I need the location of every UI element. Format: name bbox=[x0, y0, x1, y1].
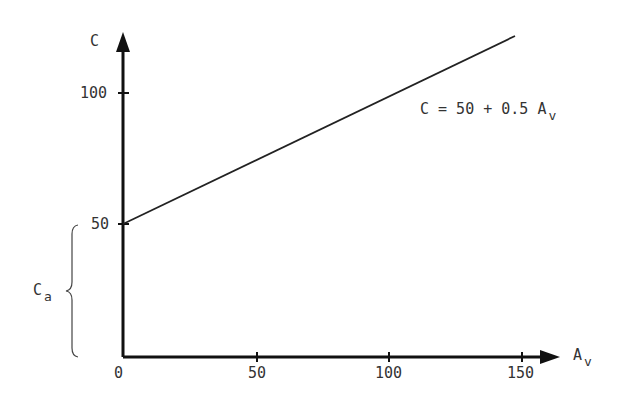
x-axis-label-sub: v bbox=[584, 354, 592, 369]
brace-icon bbox=[66, 225, 78, 357]
x-tick-label-150: 150 bbox=[507, 364, 534, 382]
chart-canvas bbox=[0, 0, 631, 405]
x-axis-arrow-icon bbox=[540, 350, 560, 364]
x-tick-label-50: 50 bbox=[248, 364, 266, 382]
equation-annotation: C = 50 + 0.5 Av bbox=[420, 100, 556, 118]
brace-label: Ca bbox=[33, 281, 52, 299]
x-tick-label-100: 100 bbox=[375, 364, 402, 382]
brace-label-main: C bbox=[33, 281, 42, 299]
y-tick-label-50: 50 bbox=[91, 215, 109, 233]
x-tick-label-0: 0 bbox=[114, 364, 123, 382]
y-tick-label-100: 100 bbox=[80, 84, 107, 102]
consumption-line bbox=[123, 36, 515, 224]
y-axis-arrow-icon bbox=[116, 32, 130, 52]
brace-label-sub: a bbox=[44, 289, 52, 304]
y-axis-label: C bbox=[90, 32, 99, 50]
equation-main: C = 50 + 0.5 A bbox=[420, 100, 546, 118]
equation-sub: v bbox=[548, 108, 556, 123]
x-axis-label-main: A bbox=[573, 346, 582, 364]
x-axis-label: Av bbox=[573, 346, 592, 364]
